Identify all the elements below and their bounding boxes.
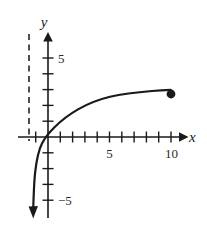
- curve-down-arrowhead-icon: [29, 206, 38, 219]
- curve-endpoint-dot: [167, 90, 176, 99]
- y-axis-label: y: [39, 14, 48, 30]
- x-tick-label-5: 5: [106, 146, 113, 161]
- y-axis-group: [43, 32, 54, 218]
- x-tick-label-10: 10: [165, 146, 178, 161]
- y-tick-label-5: 5: [58, 51, 65, 66]
- coordinate-plane-svg: x y 5 10 5 −5: [0, 0, 207, 230]
- graph-figure: x y 5 10 5 −5: [0, 0, 207, 230]
- logarithmic-curve-path: [33, 90, 170, 210]
- y-axis-arrowhead-icon: [43, 32, 53, 42]
- x-axis-label: x: [188, 129, 196, 145]
- x-axis-arrowhead-icon: [179, 132, 189, 142]
- y-tick-label-minus-5: −5: [58, 193, 72, 208]
